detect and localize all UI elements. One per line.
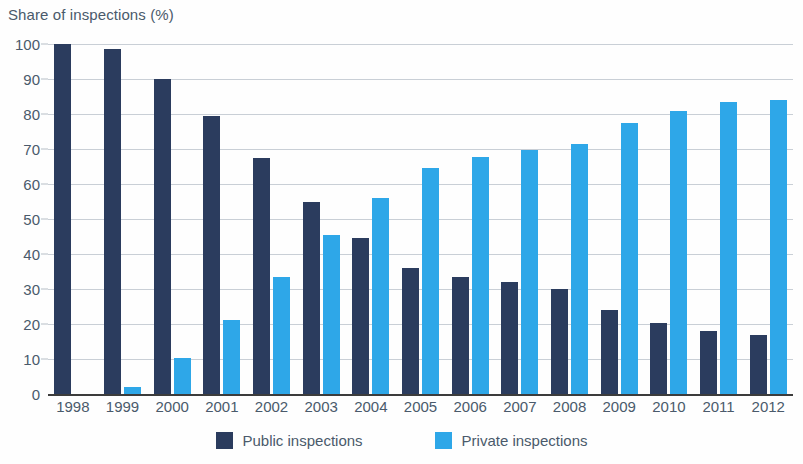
bar-public-2000[interactable] bbox=[154, 79, 171, 394]
y-tick-label-20: 20 bbox=[23, 316, 40, 333]
y-tick-label-90: 90 bbox=[23, 71, 40, 88]
x-axis: 1998199920002001200220032004200520062007… bbox=[48, 398, 793, 424]
plot-area bbox=[48, 44, 793, 394]
y-tick-label-10: 10 bbox=[23, 351, 40, 368]
x-tick-label-2007: 2007 bbox=[495, 398, 545, 424]
gridline-0 bbox=[48, 394, 793, 396]
bar-group-1999 bbox=[98, 44, 148, 394]
y-tick-label-30: 30 bbox=[23, 281, 40, 298]
bar-private-2009[interactable] bbox=[621, 123, 638, 394]
bar-group-2004 bbox=[346, 44, 396, 394]
legend-item-public[interactable]: Public inspections bbox=[216, 432, 363, 449]
x-tick-label-2010: 2010 bbox=[644, 398, 694, 424]
y-tick-mark-100 bbox=[41, 44, 48, 45]
y-tick-mark-10 bbox=[41, 359, 48, 360]
bar-group-2002 bbox=[247, 44, 297, 394]
x-tick-label-2005: 2005 bbox=[396, 398, 446, 424]
y-tick-label-50: 50 bbox=[23, 211, 40, 228]
bar-group-1998 bbox=[48, 44, 98, 394]
bar-public-2008[interactable] bbox=[551, 289, 568, 394]
bar-group-2001 bbox=[197, 44, 247, 394]
bar-public-2009[interactable] bbox=[601, 310, 618, 394]
x-tick-label-2003: 2003 bbox=[296, 398, 346, 424]
x-tick-label-2000: 2000 bbox=[147, 398, 197, 424]
bar-public-2010[interactable] bbox=[650, 323, 667, 394]
y-tick-label-100: 100 bbox=[15, 36, 40, 53]
y-tick-mark-40 bbox=[41, 254, 48, 255]
bar-group-2011 bbox=[694, 44, 744, 394]
bar-private-2002[interactable] bbox=[273, 277, 290, 394]
bar-group-2006 bbox=[445, 44, 495, 394]
bar-groups bbox=[48, 44, 793, 394]
bar-group-2005 bbox=[396, 44, 446, 394]
bar-public-2002[interactable] bbox=[253, 158, 270, 394]
bar-group-2000 bbox=[147, 44, 197, 394]
x-tick-label-2011: 2011 bbox=[694, 398, 744, 424]
bar-public-2005[interactable] bbox=[402, 268, 419, 394]
bar-private-2008[interactable] bbox=[571, 144, 588, 394]
bar-private-2012[interactable] bbox=[770, 100, 787, 394]
y-tick-mark-20 bbox=[41, 324, 48, 325]
x-tick-label-2004: 2004 bbox=[346, 398, 396, 424]
bar-group-2010 bbox=[644, 44, 694, 394]
chart-legend: Public inspectionsPrivate inspections bbox=[0, 432, 803, 449]
bar-private-2010[interactable] bbox=[670, 111, 687, 395]
y-tick-label-80: 80 bbox=[23, 106, 40, 123]
bar-public-2006[interactable] bbox=[452, 277, 469, 394]
x-tick-label-2012: 2012 bbox=[743, 398, 793, 424]
bar-public-1998[interactable] bbox=[54, 44, 71, 394]
chart-title: Share of inspections (%) bbox=[8, 6, 174, 23]
bar-public-2004[interactable] bbox=[352, 238, 369, 394]
x-tick-label-2008: 2008 bbox=[545, 398, 595, 424]
bar-public-2001[interactable] bbox=[203, 116, 220, 394]
y-tick-label-40: 40 bbox=[23, 246, 40, 263]
bar-private-2011[interactable] bbox=[720, 102, 737, 394]
bar-private-1999[interactable] bbox=[124, 387, 141, 394]
bar-group-2003 bbox=[296, 44, 346, 394]
legend-label-public: Public inspections bbox=[243, 432, 363, 449]
x-tick-label-2001: 2001 bbox=[197, 398, 247, 424]
bar-public-2011[interactable] bbox=[700, 331, 717, 394]
bar-private-2003[interactable] bbox=[323, 235, 340, 394]
y-tick-mark-80 bbox=[41, 114, 48, 115]
y-tick-label-60: 60 bbox=[23, 176, 40, 193]
bar-private-2004[interactable] bbox=[372, 198, 389, 394]
y-tick-mark-30 bbox=[41, 289, 48, 290]
bar-group-2008 bbox=[545, 44, 595, 394]
bar-private-2001[interactable] bbox=[223, 320, 240, 394]
legend-label-private: Private inspections bbox=[462, 432, 588, 449]
bar-public-1999[interactable] bbox=[104, 49, 121, 394]
x-tick-label-2006: 2006 bbox=[445, 398, 495, 424]
bar-group-2012 bbox=[743, 44, 793, 394]
y-tick-label-70: 70 bbox=[23, 141, 40, 158]
legend-item-private[interactable]: Private inspections bbox=[435, 432, 588, 449]
bar-public-2012[interactable] bbox=[750, 335, 767, 395]
bar-private-2006[interactable] bbox=[472, 157, 489, 394]
bar-private-2000[interactable] bbox=[174, 358, 191, 394]
y-axis: 0102030405060708090100 bbox=[0, 44, 40, 394]
y-tick-mark-60 bbox=[41, 184, 48, 185]
bar-group-2007 bbox=[495, 44, 545, 394]
y-tick-mark-70 bbox=[41, 149, 48, 150]
x-tick-label-1998: 1998 bbox=[48, 398, 98, 424]
x-tick-label-2002: 2002 bbox=[247, 398, 297, 424]
bar-private-2007[interactable] bbox=[521, 150, 538, 394]
chart-figure: Share of inspections (%) 010203040506070… bbox=[0, 0, 803, 464]
bar-public-2003[interactable] bbox=[303, 202, 320, 395]
bar-public-2007[interactable] bbox=[501, 282, 518, 394]
bar-group-2009 bbox=[594, 44, 644, 394]
x-tick-label-1999: 1999 bbox=[98, 398, 148, 424]
bar-private-2005[interactable] bbox=[422, 168, 439, 394]
y-tick-mark-90 bbox=[41, 79, 48, 80]
legend-swatch-public-icon bbox=[216, 432, 233, 449]
y-tick-label-0: 0 bbox=[32, 386, 40, 403]
legend-swatch-private-icon bbox=[435, 432, 452, 449]
y-tick-mark-50 bbox=[41, 219, 48, 220]
x-tick-label-2009: 2009 bbox=[594, 398, 644, 424]
